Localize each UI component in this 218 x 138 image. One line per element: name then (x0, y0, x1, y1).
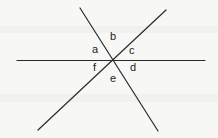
angle-label-b: b (110, 31, 116, 42)
descending-diagonal-line (80, 8, 158, 131)
ascending-diagonal-line (38, 10, 166, 130)
angle-label-e: e (110, 73, 116, 84)
angle-label-a: a (92, 44, 98, 55)
geometry-figure: a b c d e f (0, 0, 218, 138)
angle-label-d: d (130, 62, 136, 73)
angle-label-f: f (93, 62, 96, 73)
angle-label-c: c (129, 45, 135, 56)
lines-canvas (0, 0, 218, 138)
